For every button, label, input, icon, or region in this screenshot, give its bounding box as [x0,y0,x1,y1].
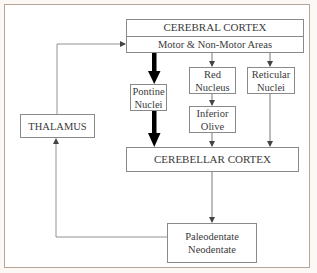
cerebral-cortex-title: CEREBRAL CORTEX [127,20,303,37]
inferior-olive-box: Inferior Olive [189,106,236,133]
reticular-nuclei-line1: Reticular [252,68,290,81]
thalamus-to-cortex-arrow [57,44,125,114]
deep-nuclei-box: Paleodentate Neodentate [167,223,257,263]
cerebellar-cortex-label: CEREBELLAR CORTEX [154,153,271,166]
thalamus-box: THALAMUS [20,114,95,138]
pontine-nuclei-line1: Pontine [132,85,164,98]
inferior-olive-line2: Olive [201,120,224,133]
pontine-nuclei-line2: Nuclei [135,98,163,111]
pontine-to-cerebellar-thick-arrow [148,110,161,147]
cerebellar-cortex-box: CEREBELLAR CORTEX [126,147,299,172]
cortex-to-pontine-thick-arrow [148,52,161,84]
inferior-olive-line1: Inferior [196,107,228,120]
reticular-nuclei-line2: Nuclei [257,81,285,94]
red-nucleus-line1: Red [204,68,221,81]
red-nucleus-line2: Nucleus [195,81,229,94]
reticular-nuclei-box: Reticular Nuclei [247,67,295,94]
thalamus-label: THALAMUS [28,120,86,133]
cerebral-cortex-box: CEREBRAL CORTEX Motor & Non-Motor Areas [126,19,304,53]
red-nucleus-box: Red Nucleus [189,67,236,94]
pontine-nuclei-box: Pontine Nuclei [130,84,167,111]
deep-nuclei-line2: Neodentate [188,243,236,256]
cerebral-cortex-subtitle: Motor & Non-Motor Areas [127,37,303,53]
deep-nuclei-line1: Paleodentate [185,230,239,243]
